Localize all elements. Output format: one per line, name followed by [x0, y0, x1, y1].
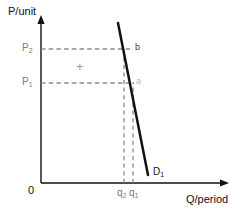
y-axis-title: P/unit	[8, 6, 36, 17]
q1-subscript: 1	[135, 192, 139, 199]
q2-subscript: 2	[123, 192, 127, 199]
q2-text: q	[117, 187, 123, 198]
y-axis-arrowhead	[37, 15, 44, 24]
p1-text: P	[22, 76, 29, 87]
x-axis-arrowhead	[220, 179, 229, 186]
q1-text: q	[129, 187, 135, 198]
point-label-a: a	[136, 77, 141, 86]
guide-lines-group	[41, 49, 134, 183]
x-axis-title: Q/period	[186, 194, 228, 205]
chart-canvas	[0, 0, 243, 211]
x-tick-label-q2: q2	[117, 188, 126, 198]
economics-demand-chart: P/unit Q/period 0 P2 P1 q2 q1 b a + D1	[0, 0, 243, 211]
p2-text: P	[22, 42, 29, 53]
x-tick-label-q1: q1	[129, 188, 138, 198]
y-tick-label-p1: P1	[22, 77, 33, 87]
surplus-plus-mark: +	[76, 60, 84, 73]
p1-subscript: 1	[29, 81, 33, 88]
point-label-b: b	[135, 43, 140, 52]
demand-curve-label: D1	[153, 167, 164, 177]
origin-label: 0	[28, 185, 34, 196]
p2-subscript: 2	[29, 47, 33, 54]
demand-subscript: 1	[160, 171, 164, 178]
y-tick-label-p2: P2	[22, 43, 33, 53]
